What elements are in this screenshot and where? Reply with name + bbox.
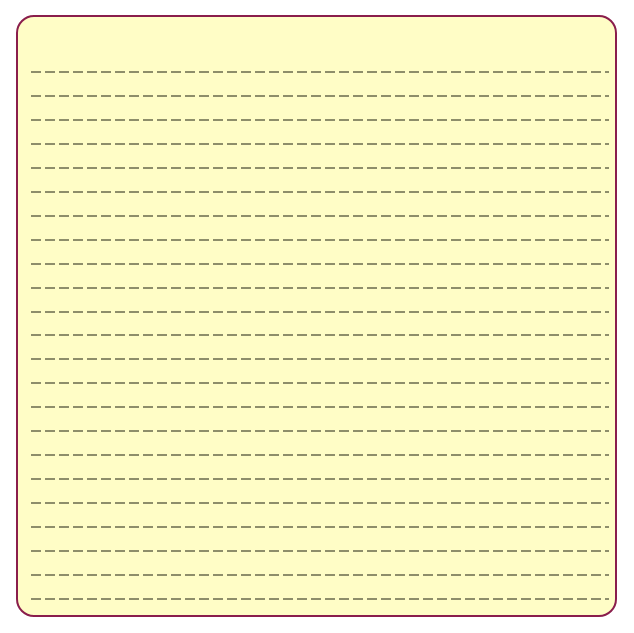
ruled-line [31,71,609,73]
ruled-line [31,574,609,576]
ruled-line [31,95,609,97]
ruled-line [31,167,609,169]
ruled-line [31,311,609,313]
ruled-line [31,143,609,145]
ruled-line [31,215,609,217]
ruled-line [31,430,609,432]
ruled-line [31,382,609,384]
ruled-line [31,239,609,241]
ruled-line [31,119,609,121]
ruled-line [31,263,609,265]
ruled-line [31,550,609,552]
ruled-line [31,526,609,528]
ruled-line [31,454,609,456]
ruled-line [31,598,609,600]
ruled-line [31,358,609,360]
ruled-line [31,334,609,336]
notepad-page[interactable] [16,15,617,617]
ruled-line [31,191,609,193]
ruled-line [31,287,609,289]
ruled-line [31,406,609,408]
ruled-line [31,502,609,504]
ruled-line [31,478,609,480]
